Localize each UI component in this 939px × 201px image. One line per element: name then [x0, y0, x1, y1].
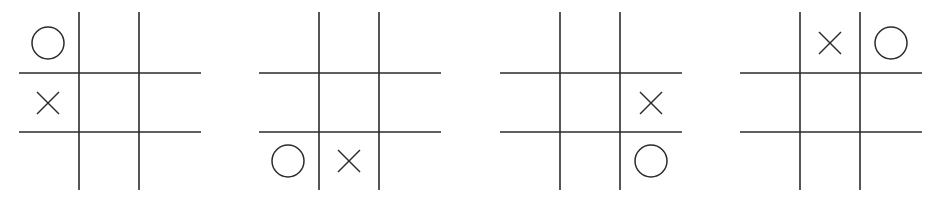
tic-tac-toe-figure [0, 0, 939, 201]
x-mark-icon [819, 32, 841, 54]
board-grid [481, 0, 711, 201]
board-grid [721, 0, 939, 201]
board-grid [0, 0, 230, 201]
board-grid [240, 0, 470, 201]
o-mark-icon [635, 145, 667, 177]
o-mark-icon [272, 145, 304, 177]
board-2 [240, 0, 470, 201]
board-1 [0, 0, 230, 201]
x-mark-icon [338, 150, 360, 172]
x-mark-icon [640, 92, 662, 114]
board-3 [481, 0, 711, 201]
board-4 [721, 0, 939, 201]
o-mark-icon [875, 27, 907, 59]
x-mark-icon [37, 92, 59, 114]
o-mark-icon [32, 27, 64, 59]
